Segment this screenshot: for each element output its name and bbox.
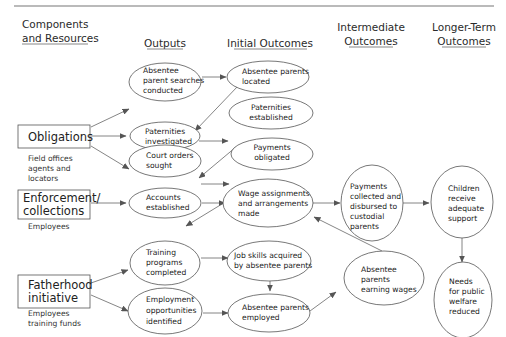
svg-text:Intermediate: Intermediate <box>337 21 405 33</box>
output-court-orders-sought: Court orders sought <box>129 145 201 177</box>
svg-text:earning wages: earning wages <box>361 285 417 294</box>
logic-model-diagram: Components and Resources Outputs Initial… <box>0 0 506 337</box>
component-fatherhood-initiative: Fatherhood initiative Employees training… <box>18 275 93 328</box>
svg-text:Fatherhood: Fatherhood <box>28 278 93 292</box>
component-enforcement-collections: Enforcement/ collections Employees <box>18 190 101 231</box>
svg-text:sought: sought <box>146 161 172 170</box>
initial-wage-assignments: Wage assignments and arrangements made <box>223 179 313 227</box>
svg-text:Payments: Payments <box>350 182 387 191</box>
svg-text:adequate: adequate <box>448 204 484 213</box>
svg-text:Enforcement/: Enforcement/ <box>23 191 101 205</box>
svg-text:support: support <box>448 214 477 223</box>
header-intermediate-outcomes: Intermediate Outcomes <box>337 21 405 47</box>
svg-text:collections: collections <box>23 204 84 218</box>
svg-text:Initial Outcomes: Initial Outcomes <box>227 37 313 49</box>
svg-text:Children: Children <box>448 184 480 193</box>
svg-text:Employees: Employees <box>28 309 70 318</box>
longer-welfare-needs-reduced: Needs for public welfare reduced <box>434 262 492 337</box>
svg-text:programs: programs <box>146 258 182 267</box>
svg-text:disbursed to: disbursed to <box>350 202 397 211</box>
svg-text:identified: identified <box>146 317 182 326</box>
header-initial-outcomes: Initial Outcomes <box>227 37 313 49</box>
longer-children-adequate-support: Children receive adequate support <box>431 166 493 238</box>
svg-text:Employment: Employment <box>146 295 194 304</box>
svg-text:Paternities: Paternities <box>251 103 291 112</box>
svg-text:by absentee parents: by absentee parents <box>234 261 312 270</box>
svg-text:parents: parents <box>350 222 379 231</box>
svg-text:conducted: conducted <box>143 86 183 95</box>
svg-text:completed: completed <box>146 268 186 277</box>
svg-text:custodial: custodial <box>350 212 384 221</box>
header-outputs: Outputs <box>144 37 186 49</box>
svg-text:receive: receive <box>448 194 476 203</box>
svg-text:locators: locators <box>28 174 58 183</box>
svg-text:and Resources: and Resources <box>22 32 99 44</box>
output-accounts-established: Accounts established <box>129 188 201 218</box>
svg-text:Employees: Employees <box>28 222 70 231</box>
svg-text:located: located <box>242 77 270 86</box>
initial-paternities-established: Paternities established <box>229 97 313 129</box>
svg-text:Longer-Term: Longer-Term <box>432 21 496 33</box>
svg-text:Training: Training <box>145 248 176 257</box>
header-components: Components and Resources <box>22 18 99 44</box>
svg-text:training funds: training funds <box>28 319 81 328</box>
svg-text:welfare: welfare <box>449 297 477 306</box>
svg-text:parents: parents <box>361 275 390 284</box>
output-absentee-parent-searches: Absentee parent searches conducted <box>129 63 204 101</box>
svg-text:Needs: Needs <box>449 277 473 286</box>
intermediate-payments-collected: Payments collected and disbursed to cust… <box>341 165 403 241</box>
svg-text:reduced: reduced <box>449 307 480 316</box>
initial-absentee-parents-located: Absentee parents located <box>227 61 309 93</box>
svg-text:agents and: agents and <box>28 164 71 173</box>
svg-text:and arrangements: and arrangements <box>238 199 308 208</box>
svg-text:collected and: collected and <box>350 192 401 201</box>
svg-text:Court orders: Court orders <box>146 151 194 160</box>
svg-text:Wage assignments: Wage assignments <box>238 189 310 198</box>
svg-text:Absentee: Absentee <box>361 265 397 274</box>
svg-text:made: made <box>238 209 260 218</box>
intermediate-absentee-parents-earning: Absentee parents earning wages <box>344 251 424 305</box>
svg-text:Absentee parents: Absentee parents <box>242 67 309 76</box>
svg-text:for public: for public <box>449 287 485 296</box>
svg-text:Paternities: Paternities <box>145 127 185 136</box>
output-training-programs-completed: Training programs completed <box>130 241 200 285</box>
svg-text:Outcomes: Outcomes <box>437 35 490 47</box>
initial-job-skills-acquired: Job skills acquired by absentee parents <box>227 241 312 281</box>
svg-text:Absentee: Absentee <box>143 66 179 75</box>
svg-text:opportunities: opportunities <box>146 306 197 315</box>
output-employment-opportunities: Employment opportunities identified <box>128 288 202 334</box>
svg-text:investigated: investigated <box>145 137 192 146</box>
svg-text:Outputs: Outputs <box>144 37 186 49</box>
header-longer-term-outcomes: Longer-Term Outcomes <box>432 21 496 47</box>
svg-text:obligated: obligated <box>254 153 290 162</box>
component-obligations: Obligations Field offices agents and loc… <box>18 125 93 183</box>
svg-text:Payments: Payments <box>253 143 290 152</box>
svg-text:Obligations: Obligations <box>28 130 93 144</box>
svg-text:established: established <box>146 203 190 212</box>
svg-text:employed: employed <box>242 313 280 322</box>
initial-absentee-parents-employed: Absentee parents employed <box>228 294 310 332</box>
svg-text:Components: Components <box>22 18 88 30</box>
svg-text:initiative: initiative <box>28 291 78 305</box>
svg-text:Accounts: Accounts <box>146 193 181 202</box>
svg-text:parent searches: parent searches <box>143 76 204 85</box>
svg-text:Outcomes: Outcomes <box>344 35 397 47</box>
svg-text:Absentee parents: Absentee parents <box>242 303 309 312</box>
svg-text:Job skills acquired: Job skills acquired <box>233 251 302 260</box>
svg-text:established: established <box>249 113 293 122</box>
initial-payments-obligated: Payments obligated <box>231 138 313 170</box>
svg-text:Field offices: Field offices <box>28 154 73 163</box>
